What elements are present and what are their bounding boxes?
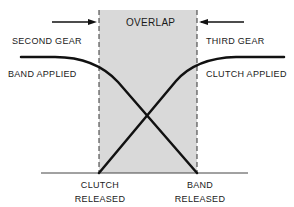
right-arrow-icon	[52, 19, 97, 25]
band-released-line2: RELEASED	[172, 194, 228, 204]
clutch-released-line2: RELEASED	[68, 194, 132, 204]
clutch-released-line1: CLUTCH	[68, 180, 132, 190]
left-arrow-icon	[199, 19, 244, 25]
clutch-released-label: CLUTCH RELEASED	[68, 180, 132, 204]
overlap-diagram	[0, 0, 294, 207]
second-gear-label: SECOND GEAR	[12, 36, 82, 46]
overlap-region	[99, 10, 197, 173]
band-released-line1: BAND	[172, 180, 228, 190]
overlap-label: OVERLAP	[126, 18, 175, 28]
band-applied-label: BAND APPLIED	[8, 69, 77, 79]
clutch-applied-label: CLUTCH APPLIED	[206, 69, 287, 79]
band-released-label: BAND RELEASED	[172, 180, 228, 204]
third-gear-label: THIRD GEAR	[206, 36, 265, 46]
